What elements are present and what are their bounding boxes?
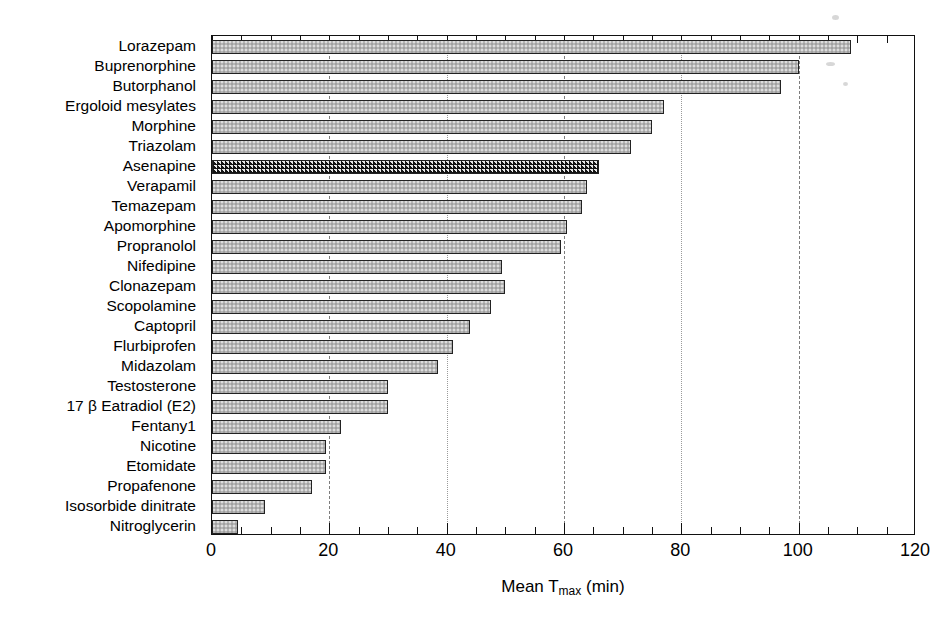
x-tick-bottom-90 bbox=[740, 527, 741, 534]
x-tick-label-80: 80 bbox=[670, 540, 690, 561]
x-tick-bottom-85 bbox=[711, 527, 712, 534]
bar-morphine bbox=[212, 120, 652, 134]
y-axis-label-17: Testosterone bbox=[0, 378, 196, 393]
y-axis-label-7: Verapamil bbox=[0, 178, 196, 193]
y-tick-21 bbox=[211, 467, 212, 468]
y-tick-16 bbox=[211, 367, 212, 368]
y-tick-12 bbox=[211, 287, 212, 288]
bar-midazolam bbox=[212, 360, 438, 374]
y-tick-24 bbox=[211, 527, 212, 528]
x-tick-bottom-45 bbox=[476, 527, 477, 534]
y-tick-20 bbox=[211, 447, 212, 448]
bar-asenapine bbox=[212, 160, 599, 174]
bar-fentany1 bbox=[212, 420, 341, 434]
y-axis-label-12: Clonazepam bbox=[0, 278, 196, 293]
x-tick-top-115 bbox=[887, 36, 888, 43]
y-tick-3 bbox=[211, 107, 212, 108]
y-axis-label-22: Propafenone bbox=[0, 478, 196, 493]
bar-nitroglycerin bbox=[212, 520, 238, 534]
x-tick-bottom-40 bbox=[447, 523, 448, 534]
y-axis-label-23: Isosorbide dinitrate bbox=[0, 498, 196, 513]
gridline-80 bbox=[681, 36, 682, 534]
x-tick-bottom-10 bbox=[271, 527, 272, 534]
bar-verapamil bbox=[212, 180, 587, 194]
x-tick-bottom-60 bbox=[564, 523, 565, 534]
x-tick-bottom-35 bbox=[417, 527, 418, 534]
y-axis-label-24: Nitroglycerin bbox=[0, 518, 196, 533]
x-axis-title-prefix: Mean T bbox=[501, 577, 558, 596]
y-axis-label-15: Flurbiprofen bbox=[0, 338, 196, 353]
scan-artifact-speck bbox=[843, 82, 848, 86]
y-axis-label-14: Captopril bbox=[0, 318, 196, 333]
y-axis-label-5: Triazolam bbox=[0, 138, 196, 153]
gridline-100 bbox=[799, 36, 800, 534]
x-tick-bottom-65 bbox=[593, 527, 594, 534]
y-tick-22 bbox=[211, 487, 212, 488]
y-axis-label-3: Ergoloid mesylates bbox=[0, 98, 196, 113]
bar-propranolol bbox=[212, 240, 561, 254]
bar-lorazepam bbox=[212, 40, 851, 54]
x-tick-bottom-95 bbox=[769, 527, 770, 534]
y-tick-0 bbox=[211, 47, 212, 48]
x-tick-bottom-15 bbox=[300, 527, 301, 534]
x-tick-bottom-5 bbox=[241, 527, 242, 534]
x-tick-bottom-100 bbox=[799, 523, 800, 534]
bar-chart: LorazepamBuprenorphineButorphanolErgoloi… bbox=[0, 0, 949, 623]
bar-propafenone bbox=[212, 480, 312, 494]
bar-captopril bbox=[212, 320, 470, 334]
x-tick-label-40: 40 bbox=[436, 540, 456, 561]
x-tick-label-60: 60 bbox=[553, 540, 573, 561]
y-tick-19 bbox=[211, 427, 212, 428]
x-tick-bottom-20 bbox=[329, 523, 330, 534]
bar-scopolamine bbox=[212, 300, 491, 314]
y-axis-label-13: Scopolamine bbox=[0, 298, 196, 313]
y-tick-10 bbox=[211, 247, 212, 248]
y-axis-label-8: Temazepam bbox=[0, 198, 196, 213]
y-axis-label-20: Nicotine bbox=[0, 438, 196, 453]
x-tick-bottom-50 bbox=[505, 527, 506, 534]
x-tick-top-110 bbox=[857, 36, 858, 43]
x-tick-bottom-80 bbox=[681, 523, 682, 534]
y-tick-6 bbox=[211, 167, 212, 168]
y-tick-8 bbox=[211, 207, 212, 208]
y-tick-14 bbox=[211, 327, 212, 328]
x-axis-title-suffix: (min) bbox=[581, 577, 624, 596]
y-tick-1 bbox=[211, 67, 212, 68]
bar-buprenorphine bbox=[212, 60, 799, 74]
y-axis-label-21: Etomidate bbox=[0, 458, 196, 473]
y-axis-category-labels: LorazepamBuprenorphineButorphanolErgoloi… bbox=[0, 35, 206, 535]
x-tick-bottom-75 bbox=[652, 527, 653, 534]
x-axis-title-subscript: max bbox=[559, 584, 582, 598]
y-tick-17 bbox=[211, 387, 212, 388]
y-tick-18 bbox=[211, 407, 212, 408]
y-tick-2 bbox=[211, 87, 212, 88]
y-tick-23 bbox=[211, 507, 212, 508]
y-axis-label-18: 17 β Eatradiol (E2) bbox=[0, 398, 196, 413]
x-tick-bottom-115 bbox=[887, 527, 888, 534]
bar-etomidate bbox=[212, 460, 326, 474]
bar-clonazepam bbox=[212, 280, 505, 294]
bar-butorphanol bbox=[212, 80, 781, 94]
x-tick-bottom-25 bbox=[359, 527, 360, 534]
bar-nicotine bbox=[212, 440, 326, 454]
bar-testosterone bbox=[212, 380, 388, 394]
plot-area bbox=[211, 35, 915, 535]
scan-artifact-speck bbox=[826, 62, 835, 66]
x-tick-label-20: 20 bbox=[318, 540, 338, 561]
bar-flurbiprofen bbox=[212, 340, 453, 354]
y-axis-label-4: Morphine bbox=[0, 118, 196, 133]
y-tick-13 bbox=[211, 307, 212, 308]
y-axis-label-16: Midazolam bbox=[0, 358, 196, 373]
x-tick-label-120: 120 bbox=[900, 540, 930, 561]
y-axis-label-1: Buprenorphine bbox=[0, 58, 196, 73]
x-axis-tick-labels: 020406080100120 bbox=[211, 540, 915, 566]
x-tick-label-100: 100 bbox=[783, 540, 813, 561]
scan-artifact-speck bbox=[832, 15, 839, 20]
y-tick-15 bbox=[211, 347, 212, 348]
bar-apomorphine bbox=[212, 220, 567, 234]
y-axis-label-19: Fentany1 bbox=[0, 418, 196, 433]
bar-isosorbide-dinitrate bbox=[212, 500, 265, 514]
y-axis-label-9: Apomorphine bbox=[0, 218, 196, 233]
x-tick-bottom-70 bbox=[623, 527, 624, 534]
bar-triazolam bbox=[212, 140, 631, 154]
